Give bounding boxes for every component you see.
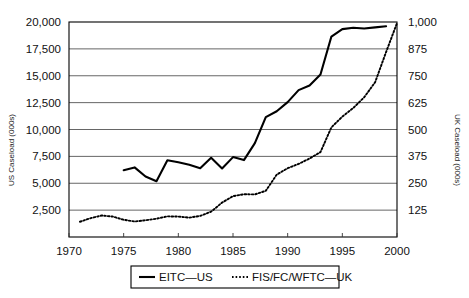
- y2tick-label-875: 875: [408, 43, 427, 55]
- y-axis-left-title: US Caseload (000s): [7, 114, 16, 186]
- y2tick-label-750: 750: [408, 70, 427, 82]
- ytick-label-12,500: 12,500: [26, 97, 61, 109]
- legend-label-eitc-us: EITC—US: [159, 271, 213, 283]
- y2tick-label-250: 250: [408, 177, 427, 189]
- y-axis-right-title: UK Caseload (000s): [453, 114, 462, 186]
- ytick-label-20,000: 20,000: [26, 16, 61, 28]
- xtick-label-1990: 1990: [275, 245, 301, 257]
- xtick-label-1970: 1970: [56, 245, 82, 257]
- xtick-label-1975: 1975: [111, 245, 137, 257]
- y2tick-label-375: 375: [408, 150, 427, 162]
- chart-container: 2,5005,0007,50010,00012,50015,00017,5002…: [0, 0, 469, 298]
- xtick-label-1995: 1995: [330, 245, 356, 257]
- y2tick-label-500: 500: [408, 124, 427, 136]
- y2tick-label-625: 625: [408, 97, 427, 109]
- ytick-label-17,500: 17,500: [26, 43, 61, 55]
- ytick-label-2,500: 2,500: [32, 204, 61, 216]
- y2tick-label-1,000: 1,000: [408, 16, 437, 28]
- line-chart: 2,5005,0007,50010,00012,50015,00017,5002…: [0, 0, 469, 298]
- chart-legend: EITC—US FIS/FC/WFTC—UK: [131, 266, 353, 288]
- ytick-label-10,000: 10,000: [26, 124, 61, 136]
- xtick-label-1980: 1980: [166, 245, 192, 257]
- legend-label-fis-fc-wftc-uk: FIS/FC/WFTC—UK: [252, 271, 353, 283]
- y2tick-label-125: 125: [408, 204, 427, 216]
- ytick-label-7,500: 7,500: [32, 150, 61, 162]
- ytick-label-15,000: 15,000: [26, 70, 61, 82]
- xtick-label-2000: 2000: [384, 245, 410, 257]
- ytick-label-5,000: 5,000: [32, 177, 61, 189]
- xtick-label-1985: 1985: [220, 245, 246, 257]
